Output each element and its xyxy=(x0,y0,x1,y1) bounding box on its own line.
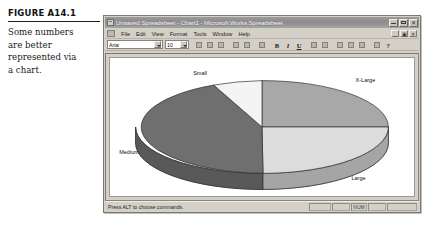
minimize-button[interactable] xyxy=(389,19,398,27)
document-window-controls: _ ▣ ✕ xyxy=(391,30,417,37)
chart-type-icon[interactable] xyxy=(309,40,319,50)
tools-glyph xyxy=(359,42,365,48)
status-panel-4 xyxy=(368,203,386,211)
tools-icon[interactable] xyxy=(357,40,367,50)
chart-canvas[interactable]: X-Large Large Medium Small xyxy=(113,61,411,193)
document-icon xyxy=(107,30,115,37)
menu-item-file[interactable]: File xyxy=(118,31,133,37)
insert-icon[interactable] xyxy=(372,40,382,50)
caption-line-4: a chart. xyxy=(8,64,100,76)
menu-item-format[interactable]: Format xyxy=(167,31,191,37)
chart-options-icon[interactable] xyxy=(320,40,330,50)
figure-caption-block: FIGURE A14.1 Some numbers are better rep… xyxy=(8,8,100,108)
font-size-value: 10 xyxy=(167,42,173,48)
border-icon[interactable] xyxy=(335,40,345,50)
font-size-combobox[interactable]: 10 xyxy=(165,40,189,49)
fill-glyph xyxy=(348,42,354,48)
restore-document-button[interactable]: ▣ xyxy=(400,30,408,37)
pie-label-large: Large xyxy=(351,175,365,181)
document-client-area: X-Large Large Medium Small xyxy=(105,53,419,201)
window-title: Unsaved Spreadsheet - Chart1 - Microsoft… xyxy=(116,20,389,26)
menu-bar: File Edit View Format Tools Window Help … xyxy=(105,29,419,39)
new-icon[interactable] xyxy=(194,40,204,50)
figure-number: FIGURE A14.1 xyxy=(8,8,100,20)
chart-type-glyph xyxy=(311,42,317,48)
copy-icon[interactable] xyxy=(257,40,267,50)
print-preview-glyph xyxy=(244,42,250,48)
help-glyph: ? xyxy=(385,42,391,48)
status-indicators: NUM xyxy=(309,203,419,211)
print-glyph xyxy=(233,42,239,48)
close-document-button[interactable]: ✕ xyxy=(409,30,417,37)
menu-item-window[interactable]: Window xyxy=(209,31,235,37)
print-icon[interactable] xyxy=(231,40,241,50)
pie-label-small: Small xyxy=(193,71,207,77)
insert-glyph xyxy=(374,42,380,48)
bold-glyph: B xyxy=(274,42,280,48)
menu-item-view[interactable]: View xyxy=(149,31,167,37)
bold-icon[interactable]: B xyxy=(272,40,282,50)
figure-rule-divider xyxy=(8,21,100,22)
spreadsheet-icon xyxy=(107,19,114,26)
status-message: Press ALT to choose commands. xyxy=(105,204,184,210)
pie-chart[interactable]: X-Large Large Medium Small xyxy=(113,61,411,193)
pie-slice-x-large[interactable] xyxy=(262,81,388,127)
font-name-value: Arial xyxy=(109,42,119,48)
chevron-down-icon[interactable] xyxy=(154,41,161,48)
menu-item-edit[interactable]: Edit xyxy=(133,31,149,37)
italic-glyph: I xyxy=(285,42,291,48)
minimize-document-button[interactable]: _ xyxy=(391,30,399,37)
copy-glyph xyxy=(259,42,265,48)
caption-line-3: represented via xyxy=(8,51,100,63)
caption-line-1: Some numbers xyxy=(8,26,100,38)
window-controls: ✕ xyxy=(389,19,418,27)
open-glyph xyxy=(207,42,213,48)
menu-item-tools[interactable]: Tools xyxy=(190,31,209,37)
pie-label-x-large: X-Large xyxy=(356,78,376,84)
underline-glyph: U xyxy=(296,42,302,48)
font-name-combobox[interactable]: Arial xyxy=(107,40,163,49)
status-panel-5 xyxy=(387,203,417,211)
status-bar: Press ALT to choose commands. NUM xyxy=(105,201,419,211)
underline-icon[interactable]: U xyxy=(294,40,304,50)
menu-item-help[interactable]: Help xyxy=(235,31,253,37)
chevron-down-icon[interactable] xyxy=(180,41,187,48)
save-glyph xyxy=(218,42,224,48)
close-button[interactable]: ✕ xyxy=(409,19,418,27)
print-preview-icon[interactable] xyxy=(242,40,252,50)
chart-sheet[interactable]: X-Large Large Medium Small xyxy=(109,57,415,197)
fill-icon[interactable] xyxy=(346,40,356,50)
save-icon[interactable] xyxy=(216,40,226,50)
caption-line-2: are better xyxy=(8,39,100,51)
application-window: Unsaved Spreadsheet - Chart1 - Microsoft… xyxy=(103,15,421,213)
figure-caption-text: Some numbers are better represented via … xyxy=(8,26,100,76)
italic-icon[interactable]: I xyxy=(283,40,293,50)
status-panel-1 xyxy=(309,203,331,211)
help-icon[interactable]: ? xyxy=(383,40,393,50)
open-icon[interactable] xyxy=(205,40,215,50)
new-glyph xyxy=(196,42,202,48)
pie-label-medium: Medium xyxy=(119,149,139,155)
title-bar[interactable]: Unsaved Spreadsheet - Chart1 - Microsoft… xyxy=(105,17,419,28)
border-glyph xyxy=(337,42,343,48)
toolbar: Arial 10 B I U ? xyxy=(105,39,419,51)
status-panel-2 xyxy=(332,203,350,211)
chart-options-glyph xyxy=(322,42,328,48)
status-panel-num: NUM xyxy=(351,203,367,211)
maximize-button[interactable] xyxy=(399,19,408,27)
